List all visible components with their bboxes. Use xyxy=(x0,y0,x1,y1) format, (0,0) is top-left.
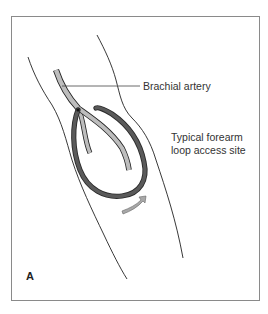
access-site-label: Typical forearm loop access site xyxy=(171,131,246,157)
curved-arrow-icon xyxy=(122,196,146,214)
access-site-label-line1: Typical forearm xyxy=(171,131,246,144)
access-site-label-line2: loop access site xyxy=(171,144,246,157)
brachial-artery-label: Brachial artery xyxy=(143,80,211,93)
panel-letter: A xyxy=(26,270,34,282)
forearm-loop-diagram xyxy=(0,0,268,314)
